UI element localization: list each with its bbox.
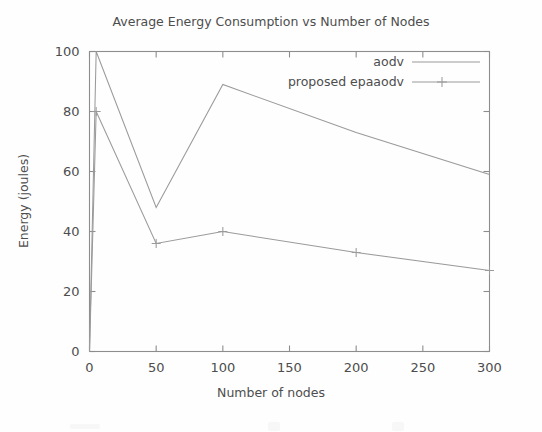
x-tick-label: 150 [277, 360, 302, 375]
x-tick-label: 300 [477, 360, 502, 375]
chart-legend: aodv proposed epaaodv [288, 54, 480, 89]
y-tick-label: 60 [63, 164, 80, 179]
legend-item-proposed-epaaodv: proposed epaaodv [288, 74, 405, 89]
x-axis: 050100150200250300 [85, 52, 502, 375]
chart-container: Average Energy Consumption vs Number of … [0, 0, 542, 432]
x-axis-title: Number of nodes [217, 385, 325, 400]
y-tick-label: 100 [55, 44, 80, 59]
x-tick-label: 100 [210, 360, 235, 375]
scan-artifact [70, 424, 100, 429]
y-tick-label: 0 [71, 344, 79, 359]
chart-plot-area: Average Energy Consumption vs Number of … [0, 0, 542, 432]
legend-item-aodv: aodv [373, 54, 404, 69]
x-tick-label: 0 [85, 360, 93, 375]
x-tick-label: 50 [148, 360, 165, 375]
data-point-marker [352, 248, 361, 257]
x-tick-label: 200 [344, 360, 369, 375]
data-point-marker [92, 107, 101, 116]
data-point-marker [485, 266, 494, 275]
y-tick-label: 20 [63, 284, 80, 299]
scan-artifact [392, 422, 404, 431]
plot-frame [90, 52, 490, 352]
y-axis-title: Energy (joules) [16, 154, 31, 248]
legend-marker-plus-icon [437, 77, 447, 87]
y-tick-label: 80 [63, 104, 80, 119]
y-axis: 020406080100 [55, 44, 490, 359]
chart-title: Average Energy Consumption vs Number of … [112, 14, 429, 29]
data-point-marker [152, 239, 161, 248]
scan-artifact [268, 422, 280, 431]
data-point-marker [218, 227, 227, 236]
data-series-group [90, 52, 495, 352]
plot-border [90, 52, 490, 352]
y-tick-label: 40 [63, 224, 80, 239]
x-tick-label: 250 [410, 360, 435, 375]
series-line-aodv [90, 52, 490, 352]
series-line-proposed-epaaodv [90, 112, 490, 352]
